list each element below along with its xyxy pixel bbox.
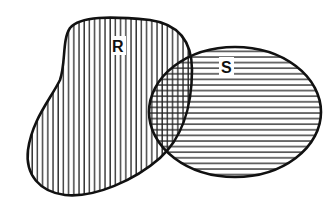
venn-diagram: R S [0,0,324,205]
set-s-label: S [221,59,232,76]
set-r-label: R [112,38,124,55]
